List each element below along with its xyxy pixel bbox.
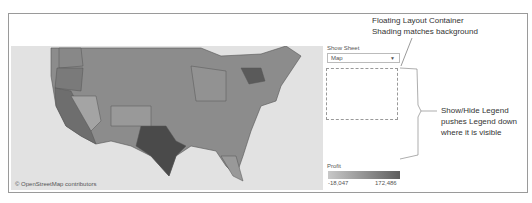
annotation-lines bbox=[0, 0, 532, 203]
legend-max-value: 172,486 bbox=[375, 180, 397, 186]
legend-min-value: -18,047 bbox=[328, 180, 348, 186]
legend-title: Profit bbox=[327, 163, 341, 169]
profit-color-legend bbox=[328, 171, 400, 179]
